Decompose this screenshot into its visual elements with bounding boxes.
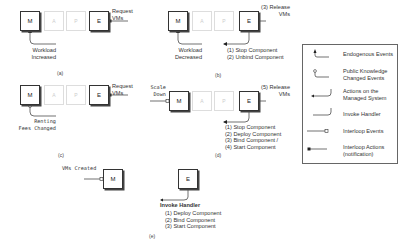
caption-e: (e) xyxy=(149,233,155,239)
analyze-node: A xyxy=(44,85,64,105)
trigger-label: WorkloadDecreased xyxy=(172,47,202,60)
legend-label: Invoke Handler xyxy=(343,111,381,118)
monitor-node: M xyxy=(168,11,188,31)
interloop-event-label: VMs Created xyxy=(62,165,96,172)
managed-actions: (1) Stop Component(2) Deploy Component(3… xyxy=(225,124,281,150)
trigger-label: WorkloadIncreased xyxy=(30,47,56,60)
action-label: (3) ReleaseVMs xyxy=(258,4,290,17)
invoke-handler-icon xyxy=(313,108,331,115)
monitor-node: M xyxy=(20,11,40,31)
analyze-node: A xyxy=(44,11,64,31)
legend-label: Public KnowledgeChanged Events xyxy=(343,68,387,81)
managed-actions: (1) Stop Component(2) Unbind Component xyxy=(227,47,284,60)
public-knowledge-event-icon xyxy=(315,71,329,77)
trigger-label: RentingFees Changed xyxy=(14,118,56,131)
caption-c: (c) xyxy=(58,152,64,158)
legend-label: Interloop Actions(notification) xyxy=(343,144,384,157)
action-label: (5) ReleaseVMs xyxy=(258,84,290,97)
plan-node: P xyxy=(214,11,234,31)
analyze-node: A xyxy=(192,91,212,111)
action-label: RequestVMs xyxy=(112,83,133,96)
plan-node: P xyxy=(66,11,86,31)
endogenous-event-icon xyxy=(315,51,329,57)
execute-node: E xyxy=(89,11,109,31)
plan-node: P xyxy=(214,91,234,111)
caption-b: (b) xyxy=(215,72,221,78)
handler-steps: (1) Deploy Component(2) Bind Component(3… xyxy=(165,210,221,230)
monitor-node: M xyxy=(169,91,189,111)
legend: Endogenous Events Public KnowledgeChange… xyxy=(302,44,398,164)
legend-label: Endogenous Events xyxy=(343,51,393,58)
action-label: RequestVMs xyxy=(112,8,133,21)
analyze-node: A xyxy=(192,11,212,31)
monitor-node: M xyxy=(103,169,123,189)
handler-title: Invoke Handler xyxy=(160,202,200,209)
interloop-event-label: ScaleDown xyxy=(146,84,166,97)
execute-node: E xyxy=(239,91,259,111)
legend-label: Interloop Events xyxy=(343,128,383,135)
execute-node: E xyxy=(89,85,109,105)
managed-action-icon xyxy=(313,89,331,96)
monitor-node: M xyxy=(20,85,40,105)
execute-node: E xyxy=(178,169,198,189)
legend-label: Actions on theManaged System xyxy=(343,88,387,101)
execute-node: E xyxy=(239,11,259,31)
caption-a: (a) xyxy=(57,70,63,76)
caption-d: (d) xyxy=(215,152,221,158)
plan-node: P xyxy=(66,85,86,105)
